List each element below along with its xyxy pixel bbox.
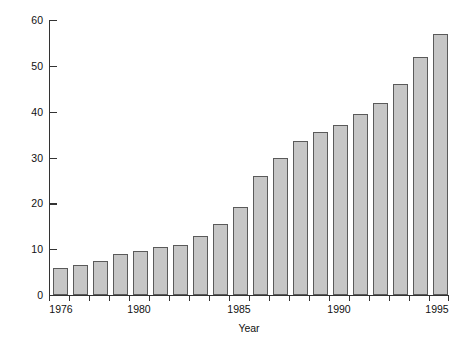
- bar: [413, 57, 428, 295]
- bar: [333, 125, 348, 295]
- x-tick-mark: [209, 295, 210, 301]
- bar: [73, 265, 88, 295]
- bar: [133, 251, 148, 295]
- bar: [253, 176, 268, 295]
- x-tick-mark: [49, 295, 50, 301]
- x-tick-label: 1976: [49, 303, 72, 315]
- bar: [193, 236, 208, 295]
- x-tick-mark: [129, 295, 130, 301]
- x-tick-mark: [249, 295, 250, 301]
- x-tick-mark: [289, 295, 290, 301]
- x-tick-mark: [149, 295, 150, 301]
- x-tick-mark: [329, 295, 330, 301]
- y-tick-label: 20: [31, 197, 43, 209]
- x-tick-mark: [309, 295, 310, 301]
- x-axis-title: Year: [49, 322, 449, 334]
- bar: [313, 132, 328, 295]
- x-tick-label: 1995: [425, 303, 448, 315]
- bar: [353, 114, 368, 295]
- bar: [293, 141, 308, 295]
- x-tick-mark: [169, 295, 170, 301]
- x-tick-mark: [369, 295, 370, 301]
- bar: [373, 103, 388, 296]
- y-tick-mark: [50, 295, 57, 296]
- bar: [93, 261, 108, 295]
- x-tick-label: 1985: [227, 303, 250, 315]
- bar: [173, 245, 188, 295]
- x-tick-mark: [409, 295, 410, 301]
- y-tick-label: 60: [31, 14, 43, 26]
- x-tick-mark: [189, 295, 190, 301]
- x-tick-mark: [389, 295, 390, 301]
- bar: [153, 247, 168, 295]
- y-tick-label: 40: [31, 106, 43, 118]
- bar: [113, 254, 128, 295]
- x-tick-mark: [269, 295, 270, 301]
- x-tick-mark: [349, 295, 350, 301]
- y-tick-label: 30: [31, 152, 43, 164]
- y-tick-label: 10: [31, 243, 43, 255]
- bar: [53, 268, 68, 296]
- bar: [433, 34, 448, 295]
- bar: [213, 224, 228, 295]
- x-tick-label: 1980: [127, 303, 150, 315]
- x-tick-label: 1990: [327, 303, 350, 315]
- bar: [233, 207, 248, 295]
- bar: [393, 84, 408, 295]
- bar-series: [49, 20, 449, 295]
- y-tick-label: 0: [37, 289, 43, 301]
- plot-area: 0102030405060 19761980198519901995: [49, 20, 449, 295]
- x-tick-mark: [89, 295, 90, 301]
- y-tick-label: 50: [31, 60, 43, 72]
- x-tick-mark: [429, 295, 430, 301]
- x-tick-mark: [69, 295, 70, 301]
- x-tick-mark: [229, 295, 230, 301]
- bar: [273, 158, 288, 296]
- y-axis-title: Number of Persons (in millions): [0, 0, 22, 347]
- x-tick-mark: [448, 295, 449, 301]
- bar-chart-figure: Number of Persons (in millions) 01020304…: [0, 0, 454, 347]
- x-tick-mark: [109, 295, 110, 301]
